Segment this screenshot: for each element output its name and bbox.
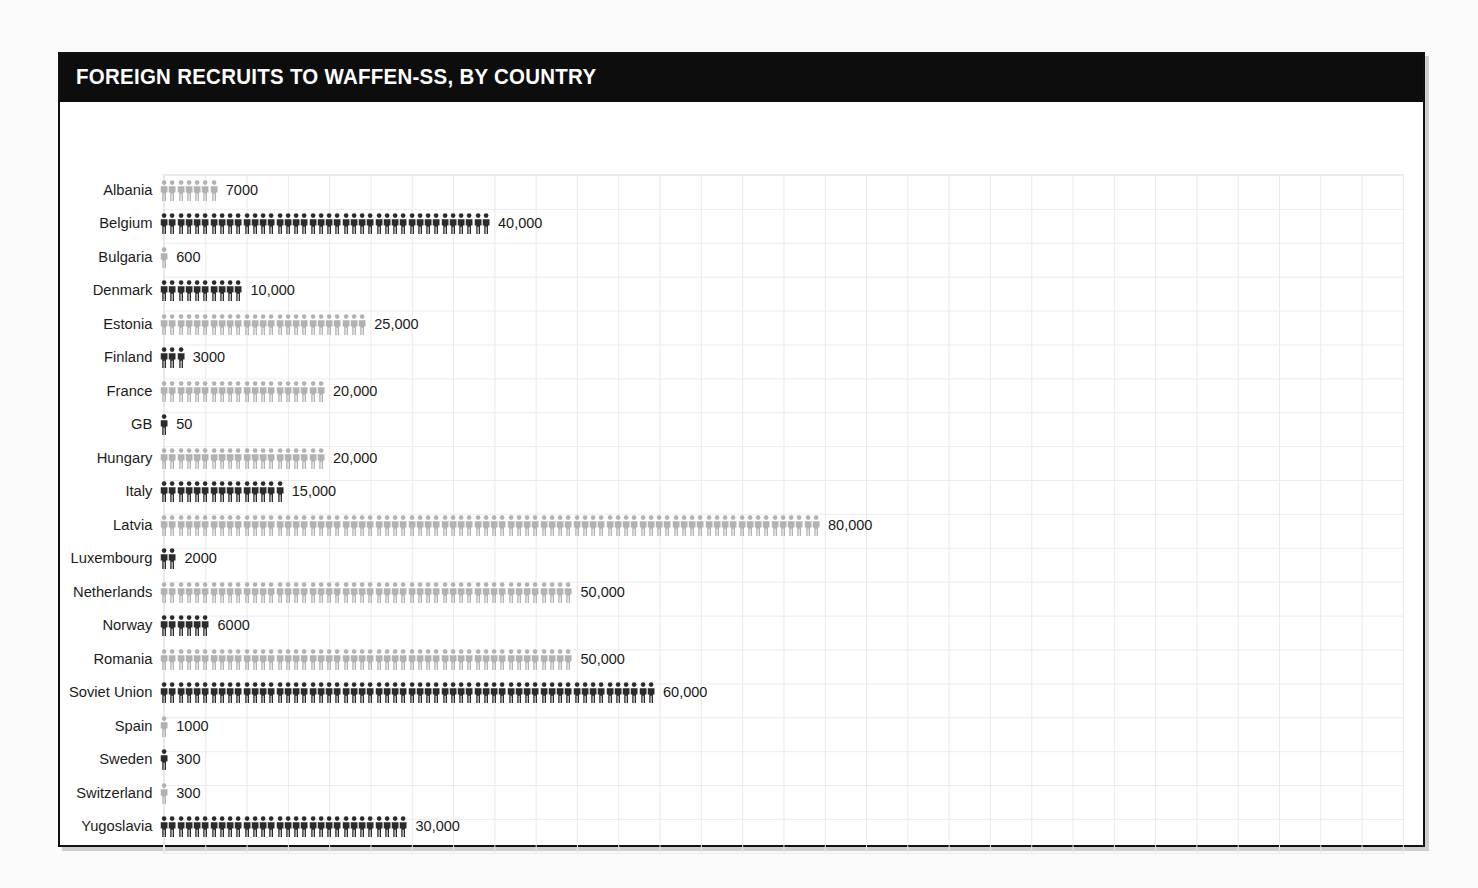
person-icon xyxy=(515,515,523,536)
person-icon xyxy=(614,515,622,536)
row-label-yugoslavia: Yugoslavia xyxy=(65,817,160,835)
person-icon xyxy=(465,682,473,703)
person-icon xyxy=(276,381,284,402)
person-icon xyxy=(218,515,226,536)
person-icon xyxy=(325,213,333,234)
row-value-label: 60,000 xyxy=(663,684,707,700)
plot-area: Albania7000Belgium40,000Bulgaria600Denma… xyxy=(60,102,1423,845)
pictogram-bar xyxy=(160,547,177,569)
pictogram-row: Finland3000 xyxy=(60,341,1423,375)
person-icon xyxy=(309,515,317,536)
person-icon xyxy=(160,247,168,268)
person-icon xyxy=(226,515,234,536)
pictogram-bar xyxy=(160,246,168,268)
person-icon xyxy=(160,314,168,335)
person-icon xyxy=(358,314,366,335)
person-icon xyxy=(259,314,267,335)
person-icon xyxy=(284,816,292,837)
person-icon xyxy=(177,347,185,368)
person-icon xyxy=(366,649,374,670)
person-icon xyxy=(482,649,490,670)
person-icon xyxy=(358,213,366,234)
person-icon xyxy=(210,481,218,502)
person-icon xyxy=(300,381,308,402)
person-icon xyxy=(457,682,465,703)
person-icon xyxy=(614,682,622,703)
person-icon xyxy=(581,682,589,703)
person-icon xyxy=(177,682,185,703)
person-icon xyxy=(160,213,168,234)
row-label-france: France xyxy=(65,382,160,400)
person-icon xyxy=(531,515,539,536)
person-icon xyxy=(168,816,176,837)
person-icon xyxy=(457,649,465,670)
person-icon xyxy=(185,682,193,703)
person-icon xyxy=(168,615,176,636)
pictogram-bar xyxy=(160,447,325,469)
person-icon xyxy=(300,816,308,837)
person-icon xyxy=(201,816,209,837)
person-icon xyxy=(441,649,449,670)
person-icon xyxy=(193,280,201,301)
person-icon xyxy=(226,481,234,502)
person-icon xyxy=(160,414,168,435)
person-icon xyxy=(210,180,218,201)
person-icon xyxy=(300,213,308,234)
person-icon xyxy=(300,582,308,603)
person-icon xyxy=(276,816,284,837)
person-icon xyxy=(391,682,399,703)
person-icon xyxy=(284,213,292,234)
person-icon xyxy=(234,213,242,234)
person-icon xyxy=(292,213,300,234)
person-icon xyxy=(358,515,366,536)
person-icon xyxy=(457,515,465,536)
person-icon xyxy=(507,682,515,703)
person-icon xyxy=(177,582,185,603)
person-icon xyxy=(680,515,688,536)
person-icon xyxy=(177,381,185,402)
person-icon xyxy=(350,816,358,837)
person-icon xyxy=(259,682,267,703)
person-icon xyxy=(267,314,275,335)
person-icon xyxy=(375,682,383,703)
person-icon xyxy=(622,515,630,536)
person-icon xyxy=(317,515,325,536)
person-icon xyxy=(449,582,457,603)
person-icon xyxy=(391,582,399,603)
person-icon xyxy=(647,682,655,703)
person-icon xyxy=(201,649,209,670)
person-icon xyxy=(243,816,251,837)
person-icon xyxy=(177,481,185,502)
person-icon xyxy=(160,347,168,368)
person-icon xyxy=(317,582,325,603)
person-icon xyxy=(350,213,358,234)
person-icon xyxy=(383,682,391,703)
person-icon xyxy=(251,448,259,469)
person-icon xyxy=(556,682,564,703)
pictogram-bar xyxy=(160,313,366,335)
person-icon xyxy=(284,448,292,469)
person-icon xyxy=(218,448,226,469)
person-icon xyxy=(333,649,341,670)
person-icon xyxy=(754,515,762,536)
person-icon xyxy=(267,816,275,837)
person-icon xyxy=(795,515,803,536)
person-icon xyxy=(210,280,218,301)
person-icon xyxy=(342,816,350,837)
person-icon xyxy=(787,515,795,536)
pictogram-row: Estonia25,000 xyxy=(60,307,1423,341)
person-icon xyxy=(218,649,226,670)
person-icon xyxy=(284,515,292,536)
row-value-label: 2000 xyxy=(185,550,217,566)
person-icon xyxy=(259,213,267,234)
person-icon xyxy=(383,649,391,670)
row-value-label: 300 xyxy=(176,785,200,801)
person-icon xyxy=(350,649,358,670)
pictogram-bar xyxy=(160,380,325,402)
person-icon xyxy=(210,682,218,703)
person-icon xyxy=(639,515,647,536)
person-icon xyxy=(267,381,275,402)
person-icon xyxy=(424,213,432,234)
person-icon xyxy=(358,649,366,670)
person-icon xyxy=(474,682,482,703)
